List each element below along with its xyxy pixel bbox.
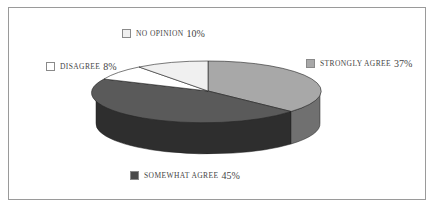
legend-swatch-disagree	[46, 62, 55, 71]
legend-pct-no-opinion: 10%	[187, 28, 205, 39]
legend-label-somewhat-agree: SOMEWHAT AGREE	[144, 171, 218, 180]
legend-disagree: DISAGREE 8%	[46, 61, 117, 72]
legend-pct-disagree: 8%	[103, 61, 116, 72]
legend-pct-somewhat-agree: 45%	[221, 170, 239, 181]
legend-pct-strongly-agree: 37%	[394, 58, 412, 69]
legend-swatch-no-opinion	[122, 29, 131, 38]
legend-swatch-strongly-agree	[306, 59, 315, 68]
legend-swatch-somewhat-agree	[130, 171, 139, 180]
legend-no-opinion: NO OPINION 10%	[122, 28, 205, 39]
legend-somewhat-agree: SOMEWHAT AGREE 45%	[130, 170, 240, 181]
legend-strongly-agree: STRONGLY AGREE 37%	[306, 58, 412, 69]
legend-label-strongly-agree: STRONGLY AGREE	[320, 59, 391, 68]
legend-label-disagree: DISAGREE	[60, 62, 100, 71]
legend-label-no-opinion: NO OPINION	[136, 29, 184, 38]
